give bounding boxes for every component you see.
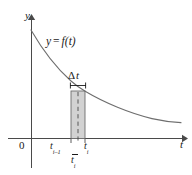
y-axis-label: y (25, 10, 30, 21)
figure-canvas (0, 0, 192, 175)
midpoint-label-t-bar: t i (71, 155, 76, 165)
riemann-sum-figure: y t 0 y=f(t) Δt ti–1 ti t i (0, 0, 192, 175)
tick-label-t-prev: ti–1 (50, 141, 61, 151)
origin-label: 0 (19, 140, 25, 151)
midpoint-label-subscript: i (74, 162, 76, 169)
delta-t-bracket (70, 83, 86, 89)
overbar-icon (72, 154, 78, 155)
function-label-rhs: f(t) (62, 35, 76, 47)
y-axis (28, 14, 35, 168)
t-axis-label: t (180, 139, 183, 150)
function-label-equals: = (53, 35, 60, 47)
tick-label-t-prev-subscript: i–1 (53, 148, 61, 155)
delta-t-label: Δt (68, 70, 79, 81)
t-axis (8, 135, 188, 142)
tick-label-t-i: ti (84, 141, 89, 151)
tick-label-t-i-subscript: i (87, 148, 89, 155)
function-label-lhs: y (46, 35, 51, 47)
function-label: y=f(t) (46, 36, 76, 48)
delta-variable: t (76, 69, 79, 81)
delta-symbol: Δ (68, 69, 75, 81)
